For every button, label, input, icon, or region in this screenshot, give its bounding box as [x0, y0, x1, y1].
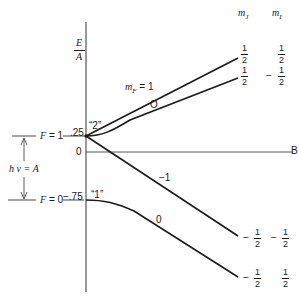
row-4-mi-value: 12 — [282, 268, 289, 289]
energy-level-diagram — [0, 0, 299, 301]
mf-plus1-line — [86, 58, 238, 136]
row-4-mj-value: 12 — [254, 268, 261, 289]
state-1-label: “1” — [91, 190, 103, 200]
row-3-mj-sign: − — [243, 233, 249, 243]
f0-level-label: F = 0 — [40, 195, 63, 205]
mj-column-header: mJ — [238, 8, 248, 21]
minus1-line-label: −1 — [159, 173, 170, 183]
row-4-mj-sign: − — [243, 273, 249, 283]
axis-label-e: E — [76, 38, 82, 48]
tick-label-minus075: −.75 — [63, 192, 83, 202]
mf-minus1-line — [86, 136, 238, 236]
lower-curve-label: 0 — [156, 215, 162, 225]
row-1-mi-value: 12 — [278, 44, 285, 65]
upper-curve-label: O — [150, 100, 158, 110]
row-2-mi-sign: − — [266, 71, 272, 81]
axis-label-a: A — [76, 52, 82, 62]
row-3-mj-value: 12 — [254, 228, 261, 249]
tick-label-025: .25 — [70, 128, 84, 138]
mi-column-header: mI — [272, 8, 282, 21]
mf-0-lower-curve — [86, 200, 238, 277]
transition-label: h ν = A — [9, 164, 39, 174]
row-2-mj-value: 12 — [241, 66, 248, 87]
b-axis-label: B — [291, 146, 298, 156]
mf-plus1-label: mF = 1 — [125, 82, 153, 95]
crossing-point — [84, 134, 88, 138]
mf-0-upper-curve — [86, 78, 238, 136]
tick-label-0: 0 — [76, 147, 82, 157]
row-1-mj-value: 12 — [241, 44, 248, 65]
row-2-mi-value: 12 — [278, 66, 285, 87]
row-3-mi-value: 12 — [282, 228, 289, 249]
row-3-mi-sign: − — [271, 233, 277, 243]
f1-level-label: FF = 1 = 1 — [40, 131, 63, 141]
state-2-label: “2” — [89, 121, 101, 131]
